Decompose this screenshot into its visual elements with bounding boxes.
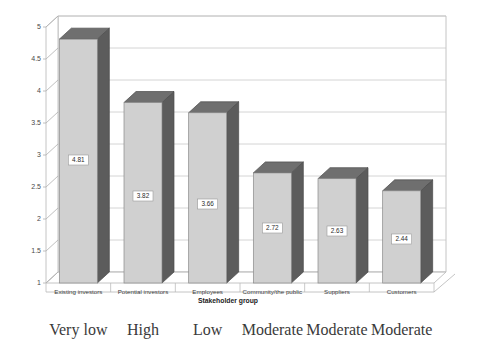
category-label: Customers [387, 288, 417, 295]
value-label: 2.72 [266, 224, 279, 231]
annotation-row: Very lowHighLowModerateModerateModerate [49, 321, 432, 339]
bar-side-face [356, 168, 368, 283]
y-axis-tick-label: 4 [37, 87, 41, 94]
y-axis-tick-labels: 11.522.533.544.55 [31, 23, 41, 286]
category-labels: Existing investorsPotential investorsEmp… [54, 288, 416, 295]
annotation-label: Moderate [371, 321, 432, 338]
y-axis-tick-label: 2.5 [31, 183, 41, 190]
category-label: Community/the public [243, 288, 303, 295]
value-label: 3.66 [201, 200, 214, 207]
bar-side-face [291, 162, 303, 283]
value-label: 3.82 [137, 192, 150, 199]
category-label: Suppliers [324, 288, 350, 295]
bar-side-face [227, 102, 239, 283]
y-axis-tick-label: 1.5 [31, 247, 41, 254]
category-label: Potential investors [118, 288, 169, 295]
annotation-label: Low [193, 321, 223, 338]
y-axis-tick-label: 1 [37, 279, 41, 286]
bar-side-face [421, 180, 433, 283]
bar-chart-3d: 11.522.533.544.55 4.813.823.662.722.632.… [0, 0, 481, 353]
chart-container: 11.522.533.544.55 4.813.823.662.722.632.… [0, 0, 481, 353]
value-label: 2.63 [331, 227, 344, 234]
bar-side-face [97, 28, 109, 283]
bar-front-face [189, 113, 227, 283]
bar [189, 102, 239, 283]
y-axis-tick-label: 3 [37, 151, 41, 158]
x-axis-title: Stakeholder group [198, 297, 258, 305]
annotation-label: High [127, 321, 159, 339]
y-axis-tick-label: 3.5 [31, 119, 41, 126]
bar [124, 92, 174, 283]
annotation-label: Very low [49, 321, 108, 339]
y-axis-tick-label: 5 [37, 23, 41, 30]
bar-side-face [162, 92, 174, 283]
bar [383, 180, 433, 283]
value-label: 4.81 [72, 156, 85, 163]
y-axis-tick-label: 4.5 [31, 55, 41, 62]
annotation-label: Moderate [306, 321, 367, 338]
y-axis-tick-label: 2 [37, 215, 41, 222]
annotation-label: Moderate [242, 321, 303, 338]
category-label: Existing investors [54, 288, 102, 295]
value-label: 2.44 [395, 235, 408, 242]
bar [318, 168, 368, 283]
category-label: Employees [192, 288, 223, 295]
bar [253, 162, 303, 283]
